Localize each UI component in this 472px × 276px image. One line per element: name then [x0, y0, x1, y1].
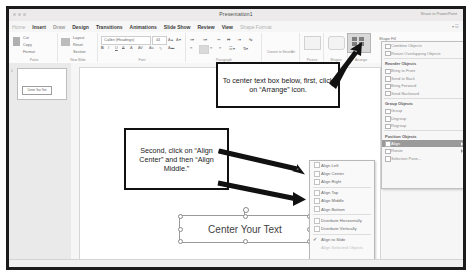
ribbon-options-icon[interactable]: ▾ ☷	[452, 24, 459, 29]
bullets-icon[interactable]: ≡▾	[190, 37, 194, 42]
app-window-frame: Presentation1 Share in PowerPoint Home I…	[6, 6, 466, 270]
menu-item-send-backward[interactable]: Send Backward	[382, 89, 466, 96]
resize-handle-ml[interactable]	[178, 227, 183, 232]
font-size-value: 44	[156, 38, 160, 42]
tab-shape-format[interactable]: Shape Format	[240, 24, 272, 30]
distribute-horizontally-menu-item[interactable]: Distribute Horizontally	[310, 216, 374, 224]
align-center-icon	[314, 171, 320, 177]
shadow-icon[interactable]: A	[130, 46, 133, 50]
paste-icon[interactable]	[13, 37, 20, 46]
decrease-indent-icon[interactable]: ↤	[217, 37, 220, 42]
bold-icon[interactable]: B	[101, 46, 104, 50]
increase-indent-icon[interactable]: ↦	[227, 37, 230, 42]
shapes-icon[interactable]	[328, 36, 345, 50]
menu-item-group[interactable]: Group	[382, 107, 466, 114]
resize-handle-bc[interactable]	[243, 239, 248, 244]
align-left-menu-item[interactable]: Align Left	[310, 161, 374, 169]
align-center-ribbon-icon[interactable]	[199, 45, 209, 54]
align-bottom-icon	[314, 206, 320, 212]
resize-handle-tl[interactable]	[178, 214, 183, 219]
character-spacing-icon[interactable]: AV	[138, 46, 143, 50]
tab-slide-show[interactable]: Slide Show	[164, 24, 191, 30]
picture-icon[interactable]	[304, 36, 321, 50]
tab-view[interactable]: View	[222, 24, 233, 30]
align-left-ribbon-icon[interactable]: ≡	[190, 46, 192, 50]
ribbon-group-shapes: Shapes	[325, 33, 348, 62]
copy-button[interactable]: Copy	[23, 43, 32, 47]
tab-design[interactable]: Design	[72, 24, 89, 30]
menu-item-send-to-back[interactable]: Send to Back	[382, 75, 466, 82]
menu-item-selection-pane[interactable]: Selection Pane...	[382, 155, 466, 162]
underline-icon[interactable]: U	[115, 46, 118, 50]
align-bottom-menu-item[interactable]: Align Bottom	[310, 205, 374, 213]
menu-item-resize-overlapping-objects[interactable]: Resize Overlapping Objects	[382, 49, 466, 56]
resize-handle-bl[interactable]	[178, 239, 183, 244]
italic-icon[interactable]: I	[108, 46, 109, 50]
tab-transitions[interactable]: Transitions	[96, 24, 123, 30]
line-spacing-icon[interactable]: ↕▾	[237, 37, 241, 42]
instruction-callout-2: Second, click on “Align Center” and then…	[124, 128, 229, 190]
resize-handle-tc[interactable]	[243, 214, 248, 219]
align-to-slide-menu-item[interactable]: Align to Slide✓	[310, 236, 374, 244]
menu-item-ungroup[interactable]: Ungroup	[382, 115, 466, 122]
font-color-icon[interactable]: A▬	[168, 46, 174, 50]
tab-animations[interactable]: Animations	[130, 24, 157, 30]
align-top-menu-item[interactable]: Align Top	[310, 189, 374, 197]
reset-button[interactable]: Reset	[73, 43, 83, 47]
menu-item-combine-objects[interactable]: Combine Objects	[382, 42, 466, 49]
rotate-icon	[385, 149, 391, 155]
tab-draw[interactable]: Draw	[53, 24, 65, 30]
slides-thumbnail-panel[interactable]: 1 Center Your Text	[9, 63, 72, 267]
check-icon: ✓	[313, 237, 317, 242]
cut-button[interactable]: Cut	[23, 36, 29, 40]
font-name-input[interactable]: Calibri (Headings)	[101, 36, 151, 45]
align-right-ribbon-icon[interactable]: ≡	[210, 46, 212, 50]
text-direction-icon[interactable]: ↹	[249, 37, 252, 42]
window-title: Presentation1	[9, 11, 463, 17]
font-size-input[interactable]: 44	[152, 36, 167, 45]
align-right-icon	[314, 179, 320, 185]
distribute-vertically-menu-item[interactable]: Distribute Vertically	[310, 224, 374, 232]
decrease-font-icon[interactable]: A▾	[176, 37, 181, 42]
menu-item-rotate[interactable]: Rotate	[382, 147, 466, 154]
arrange-button[interactable]	[347, 33, 371, 53]
ribbon-group-clipboard: Cut Copy Format Paste	[11, 33, 58, 62]
menu-item-bring-forward[interactable]: Bring Forward	[382, 82, 466, 89]
share-button[interactable]: Share in PowerPoint	[421, 11, 457, 16]
tab-home[interactable]: Home	[12, 24, 25, 30]
convert-smartart-button[interactable]: Convert to SmartArt	[263, 50, 299, 54]
bring-forward-icon	[385, 84, 391, 90]
menu-item-align[interactable]: Align	[382, 140, 466, 147]
menu-item-regroup[interactable]: Regroup	[382, 122, 466, 129]
layout-button[interactable]: Layout	[73, 36, 84, 40]
tab-review[interactable]: Review	[197, 24, 214, 30]
bring-to-front-icon	[385, 69, 391, 75]
rotate-handle[interactable]	[243, 207, 249, 213]
align-text-icon[interactable]: ⇅▾	[243, 46, 248, 51]
format-painter-button[interactable]: Format	[23, 50, 35, 54]
slide-textbox[interactable]: Center Your Text	[179, 215, 311, 243]
justify-ribbon-icon[interactable]: ≡	[219, 46, 221, 50]
menu-separator	[313, 214, 371, 215]
text-highlight-icon[interactable]: ✎	[159, 46, 162, 51]
tab-insert[interactable]: Insert	[32, 24, 46, 30]
slide-number-label: 1	[11, 69, 13, 73]
section-button[interactable]: Section	[73, 50, 86, 54]
numbering-icon[interactable]: ≡▾	[203, 37, 207, 42]
new-slide-icon[interactable]	[61, 38, 70, 46]
ribbon-group-font: Calibri (Headings) 44 A▴ A▾ B I U S A AV…	[99, 33, 186, 62]
columns-icon[interactable]: ☷▾	[229, 46, 235, 51]
increase-font-icon[interactable]: A▴	[168, 37, 173, 42]
arrange-dropdown-panel[interactable]: Combine Objects Resize Overlapping Objec…	[381, 41, 466, 189]
chevron-right-icon	[461, 149, 463, 153]
strikethrough-icon[interactable]: S	[122, 46, 125, 50]
change-case-icon[interactable]: Aa	[149, 46, 154, 50]
menu-item-bring-to-front[interactable]: Bring to Front	[382, 67, 466, 74]
align-submenu[interactable]: Align Left Align Center Align Right Alig…	[309, 160, 375, 268]
align-right-menu-item[interactable]: Align Right	[310, 177, 374, 185]
align-selected-objects-menu-item[interactable]: Align Selected Objects	[310, 244, 374, 252]
align-center-menu-item[interactable]: Align Center	[310, 169, 374, 177]
slide-thumbnail-1[interactable]: Center Your Text	[17, 68, 67, 100]
align-middle-menu-item[interactable]: Align Middle	[310, 197, 374, 205]
menu-separator	[313, 234, 371, 235]
